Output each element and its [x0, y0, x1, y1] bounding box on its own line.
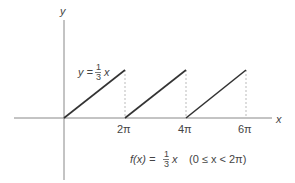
tick-label-4pi: 4π: [178, 123, 192, 135]
func-denominator: 3: [164, 159, 169, 169]
func-domain: (0 ≤ x < 2π): [189, 153, 246, 165]
function-definition: f(x) = 1 3 x (0 ≤ x < 2π): [130, 149, 246, 169]
func-numerator: 1: [164, 149, 169, 159]
curve-eq-lhs: y =: [77, 66, 94, 78]
curve-equation: y = 1 3 x: [77, 62, 110, 82]
y-axis-label: y: [59, 5, 67, 17]
func-var: x: [171, 153, 178, 165]
segment-3: [186, 70, 246, 118]
segment-2: [125, 70, 186, 118]
tick-label-2pi: 2π: [117, 123, 131, 135]
x-axis-label: x: [275, 113, 282, 125]
curve-eq-denominator: 3: [96, 72, 101, 82]
segment-1: [64, 70, 125, 118]
curve-eq-numerator: 1: [96, 62, 101, 72]
tick-label-6pi: 6π: [238, 123, 252, 135]
func-lhs: f(x) =: [130, 153, 156, 165]
sawtooth-chart: y x 2π 4π 6π y = 1 3 x f(x) = 1 3 x (0 ≤…: [0, 0, 295, 183]
curve-eq-var: x: [103, 66, 110, 78]
